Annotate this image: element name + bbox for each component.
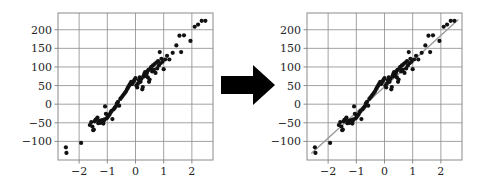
data-point bbox=[402, 71, 406, 75]
data-point bbox=[313, 145, 317, 149]
data-point bbox=[79, 141, 83, 145]
data-point bbox=[200, 19, 204, 23]
data-point bbox=[428, 50, 432, 54]
y-tick-label: 100 bbox=[31, 61, 52, 74]
y-tick-label: 100 bbox=[280, 61, 301, 74]
data-point bbox=[167, 57, 171, 61]
x-tick-label: 0 bbox=[132, 165, 139, 178]
data-point bbox=[423, 43, 427, 47]
scatter-plot-raw-svg: −2−1012−100−50050100150200 bbox=[0, 0, 218, 191]
data-point bbox=[366, 104, 370, 108]
data-point bbox=[92, 127, 96, 131]
data-point bbox=[449, 19, 453, 23]
data-point bbox=[171, 51, 175, 55]
data-point bbox=[328, 141, 332, 145]
data-point bbox=[384, 85, 388, 89]
data-point bbox=[196, 22, 200, 26]
data-point bbox=[445, 22, 449, 26]
data-point bbox=[153, 71, 157, 75]
data-point bbox=[414, 54, 418, 58]
y-tick-label: −100 bbox=[271, 135, 301, 148]
x-tick-label: 1 bbox=[409, 165, 416, 178]
x-tick-label: −1 bbox=[99, 165, 115, 178]
data-point bbox=[174, 43, 178, 47]
scatter-plot-raw-panel: −2−1012−100−50050100150200 bbox=[0, 0, 218, 191]
data-point bbox=[203, 19, 207, 23]
data-point bbox=[135, 85, 139, 89]
data-point bbox=[341, 127, 345, 131]
data-point bbox=[147, 78, 151, 82]
y-tick-label: 0 bbox=[45, 98, 52, 111]
data-point bbox=[64, 151, 68, 155]
data-point bbox=[431, 33, 435, 37]
data-point bbox=[188, 39, 192, 43]
data-point bbox=[182, 33, 186, 37]
y-tick-label: 50 bbox=[287, 80, 301, 93]
scatter-plot-fitted-panel: −2−1012−100−50050100150200 bbox=[249, 0, 467, 191]
data-point bbox=[426, 34, 430, 38]
x-tick-label: −2 bbox=[71, 165, 87, 178]
y-tick-label: −50 bbox=[29, 117, 52, 130]
x-tick-label: −1 bbox=[348, 165, 364, 178]
y-tick-label: 150 bbox=[280, 42, 301, 55]
data-point bbox=[390, 85, 394, 89]
data-point bbox=[110, 117, 114, 121]
y-tick-label: −50 bbox=[278, 117, 301, 130]
scatter-plot-fitted-svg: −2−1012−100−50050100150200 bbox=[249, 0, 467, 191]
data-point bbox=[411, 67, 415, 71]
x-tick-label: 2 bbox=[188, 165, 195, 178]
data-point bbox=[359, 117, 363, 121]
y-tick-label: 200 bbox=[280, 24, 301, 37]
data-point bbox=[117, 104, 121, 108]
data-point bbox=[162, 67, 166, 71]
x-tick-label: −2 bbox=[320, 165, 336, 178]
data-point bbox=[437, 39, 441, 43]
data-point bbox=[103, 104, 107, 108]
data-point bbox=[416, 57, 420, 61]
data-point bbox=[165, 54, 169, 58]
data-point bbox=[313, 151, 317, 155]
data-point bbox=[352, 104, 356, 108]
y-tick-label: −100 bbox=[22, 135, 52, 148]
data-point bbox=[141, 85, 145, 89]
data-point bbox=[452, 19, 456, 23]
data-point bbox=[396, 78, 400, 82]
data-point bbox=[179, 50, 183, 54]
x-tick-label: 0 bbox=[381, 165, 388, 178]
scatter-regression-figure: −2−1012−100−50050100150200 −2−1012−100−5… bbox=[0, 0, 485, 191]
y-tick-label: 150 bbox=[31, 42, 52, 55]
data-point bbox=[177, 34, 181, 38]
y-tick-label: 0 bbox=[294, 98, 301, 111]
y-tick-label: 200 bbox=[31, 24, 52, 37]
data-point bbox=[163, 57, 167, 61]
x-tick-label: 1 bbox=[160, 165, 167, 178]
y-tick-label: 50 bbox=[38, 80, 52, 93]
data-point bbox=[420, 51, 424, 55]
data-point bbox=[412, 57, 416, 61]
data-point bbox=[407, 50, 411, 54]
x-tick-label: 2 bbox=[437, 165, 444, 178]
data-point bbox=[158, 50, 162, 54]
data-point bbox=[64, 145, 68, 149]
